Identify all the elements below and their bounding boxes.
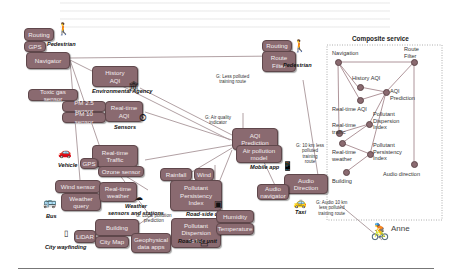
pedestrian-icon-right: 🚶 [292, 40, 307, 52]
roadside-unit-icon: ▣ [214, 198, 223, 210]
car-icon: 🚗 [58, 146, 72, 158]
node-label-ppi: Pollutant Persistency Index [373, 142, 402, 162]
node-aqi-prediction [383, 89, 390, 96]
environmental-agency-label: Environmental Agency [92, 88, 152, 94]
node-building [343, 169, 350, 176]
composite-service-title: Composite service [352, 35, 409, 42]
node-label-history-aqi: History AQI [352, 75, 380, 82]
wayfinding-kiosk-icon: ▯ [64, 228, 68, 240]
node-label-building: Building [332, 178, 352, 185]
goal-audio-ten-km: G: Audio 10 km less polluted training ro… [316, 200, 347, 216]
taxi-icon: 🚕 [293, 196, 307, 208]
node-label-audio-direction: Audio direction [383, 171, 420, 178]
air-pollution-model-box: Air pollution model [236, 145, 282, 163]
geophysical-data-box: Geophysical data apps [131, 233, 171, 253]
vehicle-label: Vehicle [58, 162, 77, 168]
node-label-route-filter: Route Filter [404, 46, 419, 59]
realtime-traffic-box: Real-time Traffic [92, 145, 138, 167]
node-history-aqi [357, 84, 364, 91]
wind-sensor-box: Wind sensor [55, 180, 101, 193]
city-map-box: City Map [95, 236, 129, 248]
navigator-box: Navigator [26, 52, 70, 69]
city-wayfinding-label: City wayfinding [45, 244, 86, 250]
audio-direction-box: Audio Direction [284, 174, 328, 194]
bus-label: Bus [46, 213, 57, 219]
node-label-navigation: Navigation [332, 50, 358, 57]
realtime-weather-box: Real-time weather [99, 182, 137, 202]
ozone-sensor-box: Ozone sensor [98, 166, 144, 177]
roadside-unit-label-2: Road-side unit [178, 238, 217, 244]
pedestrian-label-left: Pedestrian [47, 41, 76, 47]
pm10-sensor-box: PM 10 sensor [62, 112, 106, 123]
routing-pedestrian-box: Routing [24, 28, 54, 41]
node-audio-direction [411, 161, 418, 168]
humidity-box: Humidity [216, 210, 254, 223]
node-label-pdi: Pollutant Dispersion Index [373, 111, 399, 131]
temperature-box: Temperature [216, 223, 254, 235]
gps-pedestrian-box: GPS [24, 41, 46, 52]
anne-label: Anne [391, 224, 410, 233]
mobile-phone-icon: 📱 [282, 160, 293, 172]
node-label-realtime-aqi: Real-time AQI [332, 106, 367, 113]
goal-less-polluted: G: Less polluted training route [216, 74, 249, 85]
node-realtime-weather [339, 140, 346, 147]
bus-icon: 🚌 [43, 196, 57, 208]
goal-local-pollution: G: Local pollution prediction [136, 213, 172, 224]
audio-navigator-box: Audio navigator [257, 184, 289, 200]
goal-ten-km: G: 10 km less polluted training route [296, 143, 324, 165]
weather-query-box: Weather query [61, 193, 101, 211]
sensors-label: Sensors [114, 124, 136, 130]
taxi-label: Taxi [295, 209, 306, 215]
node-realtime-aqi [357, 97, 364, 104]
bottom-divider [18, 268, 434, 269]
node-pdi [366, 121, 373, 128]
node-label-aqi-prediction: AQI Prediction [390, 88, 415, 101]
node-route-filter [411, 59, 418, 66]
cyclist-icon: 🚴 [370, 226, 390, 238]
pedestrian-label-right: Pedestrian [283, 62, 312, 68]
node-navigation [335, 59, 342, 66]
goal-air-quality: G: Air quality indicator [205, 115, 231, 126]
realtime-aqi-box: Real-time AQI [105, 101, 143, 122]
node-label-realtime-weather: Real-time weather [332, 149, 356, 162]
pedestrian-icon: 🚶 [56, 23, 71, 35]
sensor-gauge-icon: ⏲ [139, 112, 147, 124]
node-label-realtime-traffic: Real-time traffic [332, 122, 356, 135]
lidar-box: LiDAR [74, 230, 96, 243]
gps-vehicle-box: GPS [80, 158, 98, 169]
mobile-app-label: Mobile app [250, 164, 279, 170]
